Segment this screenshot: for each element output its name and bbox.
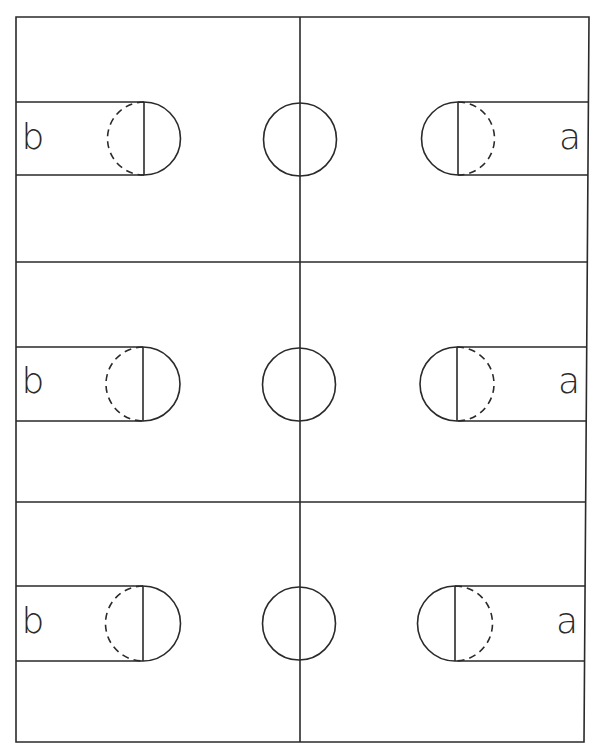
- court-3-center-circle: [263, 587, 336, 660]
- court-1-right-free-throw-arc-dashed: [458, 102, 494, 175]
- court-2-center-circle: [263, 348, 336, 421]
- court-1-left-free-throw-arc: [144, 102, 180, 175]
- court-1-right-free-throw-arc: [422, 102, 458, 175]
- court-1-left-free-throw-arc-dashed: [108, 102, 144, 175]
- court-3-right-label: a: [556, 603, 578, 639]
- court-1-right-label: a: [559, 119, 581, 155]
- court-diagram-sheet: b a b a b a: [0, 0, 602, 749]
- court-3-left-free-throw-arc: [143, 586, 181, 661]
- outer-frame: [16, 17, 589, 742]
- court-2-right-label: a: [558, 363, 580, 399]
- basketball-court-diagrams: [0, 0, 602, 749]
- court-2-right-free-throw-arc: [420, 347, 457, 421]
- court-1-left-label: b: [22, 119, 45, 155]
- court-2-left-free-throw-arc-dashed: [106, 347, 143, 421]
- court-3-left-label: b: [22, 603, 45, 639]
- court-2-left-label: b: [22, 363, 45, 399]
- court-3-right-free-throw-arc-dashed: [455, 586, 493, 661]
- court-2-right-free-throw-arc-dashed: [457, 347, 494, 421]
- court-2-left-free-throw-arc: [143, 347, 180, 421]
- court-3-right-free-throw-arc: [418, 586, 456, 661]
- court-3-left-free-throw-arc-dashed: [106, 586, 143, 661]
